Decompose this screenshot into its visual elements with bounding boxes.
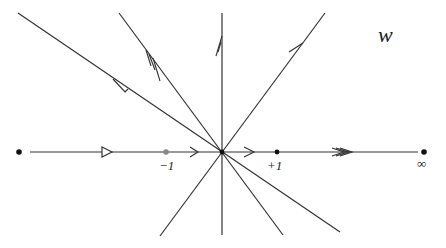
plus-one-label: +1 [267,158,282,174]
conformal-map-diagram: −1 +1 ∞ w [0,0,446,248]
steep-diagonal [119,13,283,235]
infinity-label: ∞ [417,156,426,172]
shallow-diagonal [18,13,340,232]
rising-diagonal [160,13,325,236]
plus-one-point [275,150,280,155]
open-triangle-arrow-icon [102,147,112,157]
origin-point [220,150,225,155]
half-barb-arrow-icon [289,43,303,52]
double-barb-arrow-icon [216,36,222,56]
infinity-point [421,149,427,155]
w-plane-label: w [378,22,393,48]
minus-one-point [163,149,169,155]
minus-one-label: −1 [159,158,174,174]
left-end-point [16,149,22,155]
open-triangle-arrow-icon [113,79,128,92]
